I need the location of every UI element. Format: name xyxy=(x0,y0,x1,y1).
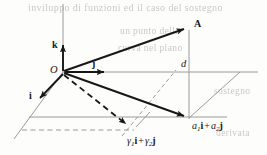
label-gamma-expression: γ1i+γ2j xyxy=(127,136,156,148)
label-height-d: d xyxy=(181,59,186,70)
vector-i-arrow xyxy=(40,74,63,98)
label-origin: O xyxy=(50,65,58,76)
projection-j: j xyxy=(219,120,222,131)
label-basis-k: k xyxy=(52,40,58,50)
vector-a-arrow xyxy=(64,29,184,71)
gamma-plus: + xyxy=(137,135,145,146)
diagram-canvas xyxy=(0,0,267,155)
label-projection-expression: a1i+a2j xyxy=(192,121,223,133)
vector-projection-arrow xyxy=(64,73,184,116)
gamma-j: j xyxy=(152,135,155,146)
gamma-guide-tick xyxy=(136,112,150,127)
label-basis-j: j xyxy=(92,59,95,69)
vector-diagram-figure: inviluppo di funzioni ed il caso del sos… xyxy=(0,0,267,155)
label-vector-a: A xyxy=(194,19,201,29)
plane-right-edge xyxy=(189,72,240,118)
label-basis-i: i xyxy=(29,91,32,101)
projection-plus: + xyxy=(203,120,211,131)
